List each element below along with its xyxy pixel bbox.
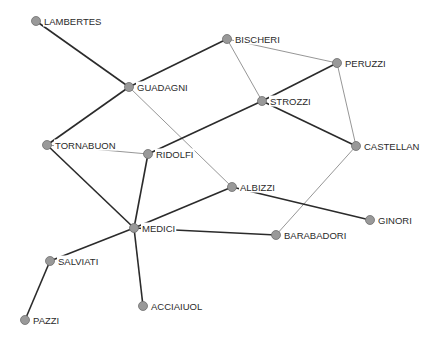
node-label-guadagni: GUADAGNI — [137, 82, 188, 93]
node-label-group: ACCIAIUOL — [150, 301, 203, 312]
node-label-group: GUADAGNI — [136, 82, 189, 93]
node-label-acciaiuol: ACCIAIUOL — [151, 301, 202, 312]
node-label-ridolfi: RIDOLFI — [156, 149, 193, 160]
node-albizzi — [228, 183, 237, 192]
node-label-group: LAMBERTES — [43, 16, 102, 27]
node-ridolfi — [144, 150, 153, 159]
edges-layer — [25, 21, 370, 320]
edge-salviati-pazzi — [25, 261, 50, 320]
edge-castellan-barabadori — [276, 146, 356, 235]
node-label-group: BISCHERI — [234, 34, 281, 45]
edge-peruzzi-castellan — [337, 63, 356, 146]
edge-strozzi-ridolfi — [148, 101, 262, 154]
edge-bischeri-strozzi — [227, 39, 262, 101]
node-label-tornabuon: TORNABUON — [55, 140, 116, 151]
node-label-bischeri: BISCHERI — [235, 34, 280, 45]
node-label-albizzi: ALBIZZI — [240, 182, 275, 193]
node-medici — [130, 224, 139, 233]
node-ginori — [366, 216, 375, 225]
node-label-group: PAZZI — [32, 315, 60, 326]
node-acciaiuol — [139, 302, 148, 311]
node-label-group: GINORI — [377, 215, 413, 226]
network-diagram: LAMBERTESGUADAGNIBISCHERIPERUZZISTROZZIC… — [0, 0, 431, 341]
node-label-castellan: CASTELLAN — [364, 141, 420, 152]
edge-ridolfi-medici — [134, 154, 148, 228]
edge-tornabuon-medici — [47, 145, 134, 228]
node-guadagni — [125, 83, 134, 92]
node-peruzzi — [333, 59, 342, 68]
edge-strozzi-castellan — [262, 101, 356, 146]
node-label-lambertes: LAMBERTES — [44, 16, 101, 27]
node-bischeri — [223, 35, 232, 44]
node-label-group: PERUZZI — [344, 58, 387, 69]
edge-lambertes-guadagni — [36, 21, 129, 87]
node-label-group: CASTELLAN — [363, 141, 421, 152]
node-label-medici: MEDICI — [142, 223, 175, 234]
node-pazzi — [21, 316, 30, 325]
node-label-group: RIDOLFI — [155, 149, 194, 160]
node-label-group: SALVIATI — [57, 256, 99, 267]
edge-guadagni-bischeri — [129, 39, 227, 87]
node-label-peruzzi: PERUZZI — [345, 58, 386, 69]
labels-layer: LAMBERTESGUADAGNIBISCHERIPERUZZISTROZZIC… — [32, 16, 421, 326]
node-label-group: MEDICI — [141, 223, 176, 234]
node-castellan — [352, 142, 361, 151]
node-label-group: STROZZI — [269, 96, 312, 107]
node-salviati — [46, 257, 55, 266]
node-label-group: ALBIZZI — [239, 182, 276, 193]
node-label-group: TORNABUON — [54, 140, 117, 151]
node-label-barabadori: BARABADORI — [284, 230, 346, 241]
node-strozzi — [258, 97, 267, 106]
node-label-pazzi: PAZZI — [33, 315, 59, 326]
edge-guadagni-tornabuon — [47, 87, 129, 145]
node-barabadori — [272, 231, 281, 240]
edge-medici-acciaiuol — [134, 228, 143, 306]
node-label-ginori: GINORI — [378, 215, 412, 226]
node-label-strozzi: STROZZI — [270, 96, 311, 107]
node-label-group: BARABADORI — [283, 230, 347, 241]
node-label-salviati: SALVIATI — [58, 256, 98, 267]
node-lambertes — [32, 17, 41, 26]
node-tornabuon — [43, 141, 52, 150]
